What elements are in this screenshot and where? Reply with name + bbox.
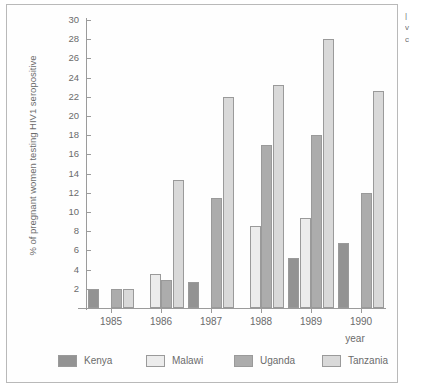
y-tick-label: 4 [53,265,79,275]
y-tick [86,231,91,232]
y-tick-label: 24 [53,73,79,83]
y-tick [86,174,91,175]
bar-uganda-1986 [161,280,172,308]
y-tick-label: 14 [53,169,79,179]
y-tick [86,135,91,136]
bar-tanzania-1985 [123,289,134,308]
y-tick [86,97,91,98]
x-tick-label: 1986 [136,316,186,327]
bar-uganda-1989 [311,135,322,308]
cutoff-text-column: | v c [405,10,434,46]
legend-label-kenya: Kenya [84,355,112,367]
legend-swatch-tanzania [322,355,341,367]
bar-tanzania-1989 [323,39,334,308]
bar-kenya-1987 [188,282,199,308]
cutoff-line-1: | [405,10,434,22]
y-tick-label: 10 [53,207,79,217]
legend-swatch-uganda [234,355,253,367]
y-tick-label: 12 [53,188,79,198]
y-tick-label: 2 [53,284,79,294]
bar-uganda-1988 [261,145,272,308]
y-axis-line [86,18,87,310]
y-tick [86,154,91,155]
x-tick [211,308,212,313]
bar-uganda-1985 [111,289,122,308]
y-tick-label: 26 [53,53,79,63]
bar-tanzania-1988 [273,85,284,308]
bar-uganda-1987 [211,198,222,308]
bar-kenya-1985 [88,289,99,308]
y-tick [86,116,91,117]
x-tick-label: 1985 [86,316,136,327]
y-tick [86,78,91,79]
x-axis-line [78,308,386,309]
x-tick [361,308,362,313]
bar-tanzania-1990 [373,91,384,308]
y-tick [86,250,91,251]
y-tick [86,270,91,271]
y-tick-label: 30 [53,15,79,25]
y-tick-label: 8 [53,226,79,236]
bar-kenya-1990 [338,243,349,308]
y-tick [86,20,91,21]
y-tick [86,212,91,213]
x-tick-label: 1988 [236,316,286,327]
y-tick-label: 20 [53,111,79,121]
x-tick [311,308,312,313]
legend-swatch-malawi [146,355,165,367]
x-tick-label: 1989 [286,316,336,327]
x-axis-title: year [330,333,380,344]
bar-tanzania-1987 [223,97,234,308]
y-tick [86,39,91,40]
x-tick [111,308,112,313]
x-tick [261,308,262,313]
legend-label-tanzania: Tanzania [348,355,388,367]
y-tick-label: 16 [53,149,79,159]
x-tick-label: 1990 [336,316,386,327]
bar-chart: % of pregnant women testing HIV1 seropos… [0,0,392,379]
legend-label-uganda: Uganda [260,355,295,367]
y-tick-label: 18 [53,130,79,140]
bar-uganda-1990 [361,193,372,308]
legend-swatch-kenya [58,355,77,367]
chart-legend: KenyaMalawiUgandaTanzania [58,354,388,374]
bar-malawi-1986 [150,274,161,308]
legend-label-malawi: Malawi [172,355,203,367]
bar-malawi-1988 [250,226,261,308]
y-tick-label: 6 [53,245,79,255]
y-tick-label: 22 [53,92,79,102]
cutoff-line-2: v [405,22,434,34]
bar-kenya-1989 [288,258,299,308]
x-tick-label: 1987 [186,316,236,327]
y-axis-title: % of pregnant women testing HIV1 seropos… [27,6,38,306]
y-tick [86,58,91,59]
bar-malawi-1989 [300,218,311,308]
y-tick [86,193,91,194]
y-tick-label: 28 [53,34,79,44]
x-tick [161,308,162,313]
cutoff-line-3: c [405,34,434,46]
bar-tanzania-1986 [173,180,184,308]
